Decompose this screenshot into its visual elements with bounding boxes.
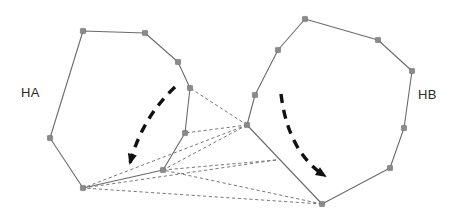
vertex-marker-hb-0 — [302, 16, 307, 21]
vertex-marker-hb-5 — [319, 201, 324, 206]
vertex-marker-hb-6 — [244, 122, 249, 127]
vertex-marker-ha-2 — [175, 59, 180, 64]
vertex-marker-ha-7 — [47, 135, 52, 140]
region-label-ha: HA — [21, 85, 40, 100]
motion-arrowhead-motion-ha — [128, 153, 137, 165]
motion-arrow-group — [128, 87, 327, 177]
vertex-marker-ha-5 — [160, 167, 165, 172]
correspondence-line-6 — [163, 170, 322, 204]
vertex-marker-hb-2 — [409, 68, 414, 73]
polygon-outline-ha — [50, 31, 190, 188]
polygon-group — [50, 19, 412, 204]
motion-arrow-path-motion-hb — [281, 94, 325, 176]
shape-correspondence-figure: HA HB — [0, 0, 467, 220]
vertex-marker-ha-6 — [80, 185, 85, 190]
correspondence-line-group — [83, 88, 322, 204]
vertex-marker-hb-1 — [375, 37, 380, 42]
vertex-marker-hb-7 — [252, 92, 257, 97]
vertex-marker-group — [47, 16, 414, 206]
correspondence-line-1 — [185, 125, 247, 133]
figure-canvas — [0, 0, 467, 220]
polygon-outline-hb — [247, 19, 412, 204]
motion-arrow-path-motion-ha — [130, 87, 175, 163]
vertex-marker-ha-3 — [187, 85, 192, 90]
correspondence-line-0 — [190, 88, 247, 125]
region-label-hb: HB — [418, 87, 437, 102]
vertex-marker-hb-4 — [387, 165, 392, 170]
vertex-marker-hb-3 — [401, 125, 406, 130]
vertex-marker-ha-4 — [182, 130, 187, 135]
correspondence-line-4 — [163, 160, 276, 170]
vertex-marker-hb-8 — [275, 47, 280, 52]
vertex-marker-ha-1 — [142, 30, 147, 35]
correspondence-line-3 — [83, 125, 247, 188]
vertex-marker-ha-0 — [80, 28, 85, 33]
